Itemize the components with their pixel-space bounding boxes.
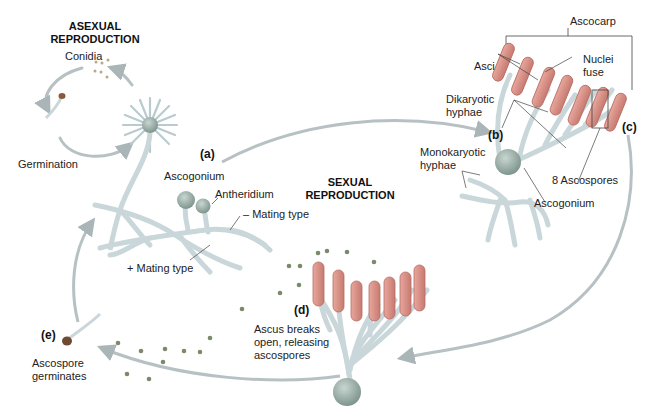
stage-a: (a) <box>200 147 215 161</box>
conidiophore-vesicle <box>142 117 158 133</box>
stage-d: (d) <box>294 303 309 317</box>
label-germination: Germination <box>18 158 78 171</box>
sexual-heading: SEXUAL REPRODUCTION <box>305 176 395 202</box>
stage-b: (b) <box>488 128 503 142</box>
conidiophore-stalk <box>110 133 150 250</box>
asexual-cycle-arrows <box>46 68 132 156</box>
ascogonium-a <box>177 191 195 209</box>
label-nuclei-fuse: Nuclei fuse <box>583 53 614 79</box>
label-antheridium: Antheridium <box>215 188 274 201</box>
stage-e: (e) <box>41 328 56 342</box>
label-ascogonium-b: Ascogonium <box>534 197 595 210</box>
ascogonium-b <box>495 149 521 175</box>
germinating-conidium <box>46 93 66 118</box>
label-ascospore-germinates: Ascospore germinates <box>32 357 86 383</box>
germinating-ascospore <box>62 314 100 346</box>
label-conidia: Conidia <box>65 50 102 63</box>
ascogonium-d <box>333 378 361 406</box>
antheridium <box>196 199 211 214</box>
asexual-heading: ASEXUAL REPRODUCTION <box>50 20 140 46</box>
label-dikaryotic-hyphae: Dikaryotic hyphae <box>446 93 494 119</box>
label-monokaryotic-hyphae: Monokaryotic hyphae <box>420 146 485 172</box>
label-8-ascospores: 8 Ascospores <box>552 174 618 187</box>
label-asci: Asci <box>474 60 495 73</box>
label-minus-mating-type: – Mating type <box>243 208 309 221</box>
label-ascogonium-a: Ascogonium <box>164 170 225 183</box>
stage-c: (c) <box>622 120 637 134</box>
label-ascus-breaks: Ascus breaks open, releasing ascospores <box>254 323 329 362</box>
arrow-e-to-a <box>74 222 92 322</box>
label-plus-mating-type: + Mating type <box>127 262 193 275</box>
label-ascocarp: Ascocarp <box>570 15 616 28</box>
